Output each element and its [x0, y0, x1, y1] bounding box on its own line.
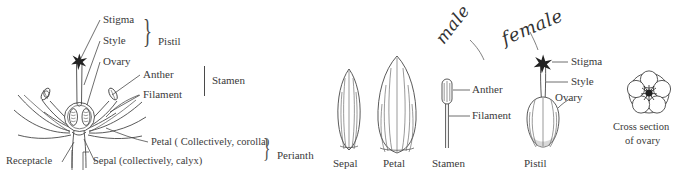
caption-stamen: Stamen — [432, 158, 465, 169]
group-label-stamen: Stamen — [212, 75, 245, 86]
left-flower-drawing — [14, 20, 148, 170]
sepal-left-group — [14, 95, 71, 138]
group-label-perianth: Perianth — [277, 150, 314, 161]
perianth-brace: } — [263, 134, 270, 162]
diagram-artwork — [0, 0, 690, 179]
caption-petal: Petal — [383, 158, 405, 169]
ovary-cross-section — [627, 71, 670, 113]
group-label-pistil: Pistil — [158, 36, 181, 47]
ovary — [65, 103, 95, 132]
sepal-specimen — [338, 69, 360, 150]
label-receptacle: Receptacle — [6, 156, 52, 167]
label-sepal-calyx: Sepal (collectively, calyx) — [93, 156, 202, 167]
label-style-left: Style — [103, 35, 126, 46]
bottom-tick-marks — [72, 150, 89, 170]
label-filament-right: Filament — [472, 110, 511, 121]
figure-canvas: Stigma Style Ovary Anther Filament Petal… — [0, 0, 690, 179]
stigma-star — [71, 53, 87, 70]
receptacle-stem — [72, 130, 86, 168]
label-petal-corolla: Petal ( Collectively, corolla) — [151, 137, 269, 148]
label-filament-left: Filament — [143, 89, 182, 100]
label-stigma-left: Stigma — [103, 14, 134, 25]
label-stigma-right: Stigma — [571, 56, 602, 67]
caption-cross-section-line2: of ovary — [625, 136, 660, 147]
pistil-brace: } — [143, 14, 152, 48]
stamen-brace — [204, 66, 205, 96]
label-ovary-right: Ovary — [555, 92, 583, 103]
stamen-specimen — [442, 79, 470, 148]
caption-cross-section-line1: Cross section — [613, 122, 669, 133]
label-anther-right: Anther — [472, 84, 503, 95]
caption-sepal: Sepal — [333, 158, 357, 169]
label-ovary-left: Ovary — [103, 56, 131, 67]
style-shaft — [77, 63, 83, 106]
caption-pistil: Pistil — [524, 158, 547, 169]
petal-specimen — [378, 56, 416, 153]
label-style-right: Style — [571, 76, 594, 87]
label-anther-left: Anther — [143, 69, 174, 80]
